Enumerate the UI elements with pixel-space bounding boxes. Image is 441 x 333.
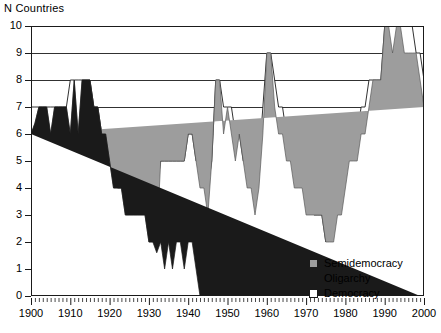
x-tick-label: 1910 xyxy=(58,308,82,319)
legend-label-oligarchy: Oligarchy xyxy=(324,273,370,284)
y-tick-label: 3 xyxy=(0,209,22,220)
y-tick-label: 1 xyxy=(0,263,22,274)
x-tick-label: 2000 xyxy=(412,308,436,319)
x-tick-label: 1900 xyxy=(19,308,43,319)
legend-label-semidemocracy: Semidemocracy xyxy=(324,258,403,269)
y-tick-label: 7 xyxy=(0,101,22,112)
x-tick-label: 1940 xyxy=(176,308,200,319)
x-tick-label: 1980 xyxy=(333,308,357,319)
chart-figure: N Countries 109876543210 190019101920193… xyxy=(0,0,441,333)
legend-label-democracy: Democracy xyxy=(324,288,380,299)
legend-item-semidemocracy: Semidemocracy xyxy=(309,256,421,270)
y-tick-label: 10 xyxy=(0,20,22,31)
y-tick-label: 9 xyxy=(0,47,22,58)
x-tick-label: 1990 xyxy=(372,308,396,319)
y-tick-label: 4 xyxy=(0,182,22,193)
x-axis: 1900191019201930194019501960197019801990… xyxy=(0,296,441,333)
x-tick-label: 1950 xyxy=(215,308,239,319)
y-tick-label: 8 xyxy=(0,74,22,85)
y-tick-label: 5 xyxy=(0,155,22,166)
y-tick-label: 6 xyxy=(0,128,22,139)
y-axis: 109876543210 xyxy=(0,0,31,333)
y-tick-label: 2 xyxy=(0,236,22,247)
legend-swatch-democracy xyxy=(309,289,318,298)
x-tick-label: 1930 xyxy=(137,308,161,319)
legend-swatch-semidemocracy xyxy=(309,259,318,268)
x-tick-label: 1920 xyxy=(97,308,121,319)
legend-item-oligarchy: Oligarchy xyxy=(309,271,421,285)
x-tick-label: 1960 xyxy=(255,308,279,319)
legend-item-democracy: Democracy xyxy=(309,286,421,300)
legend-swatch-oligarchy xyxy=(309,274,318,283)
legend: Semidemocracy Oligarchy Democracy xyxy=(309,256,421,301)
x-tick-label: 1970 xyxy=(294,308,318,319)
